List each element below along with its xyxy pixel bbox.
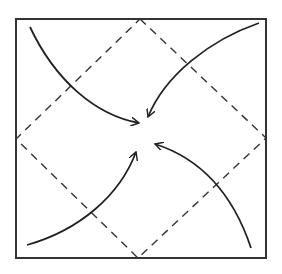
- paper-square: [16, 19, 266, 258]
- top-left-corner-arrow: [30, 27, 139, 123]
- bottom-right-corner-arrow: [155, 144, 251, 248]
- top-right-corner-arrow: [148, 23, 259, 117]
- valley-fold-lines: [16, 19, 266, 258]
- diagram-svg: [0, 0, 282, 274]
- fold-diagram: Fold all four corners of the square to t…: [0, 0, 282, 274]
